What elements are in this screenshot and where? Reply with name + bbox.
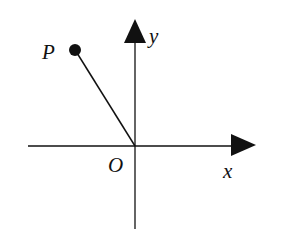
label-p: P	[41, 40, 55, 64]
y-axis-arrow-icon	[124, 19, 146, 43]
label-x: x	[222, 159, 233, 183]
label-y: y	[147, 24, 159, 48]
coordinate-diagram: P O x y	[0, 0, 287, 231]
segment-op	[77, 53, 135, 146]
x-axis-arrow-icon	[231, 134, 256, 156]
point-p	[69, 44, 81, 56]
label-origin: O	[108, 153, 123, 177]
